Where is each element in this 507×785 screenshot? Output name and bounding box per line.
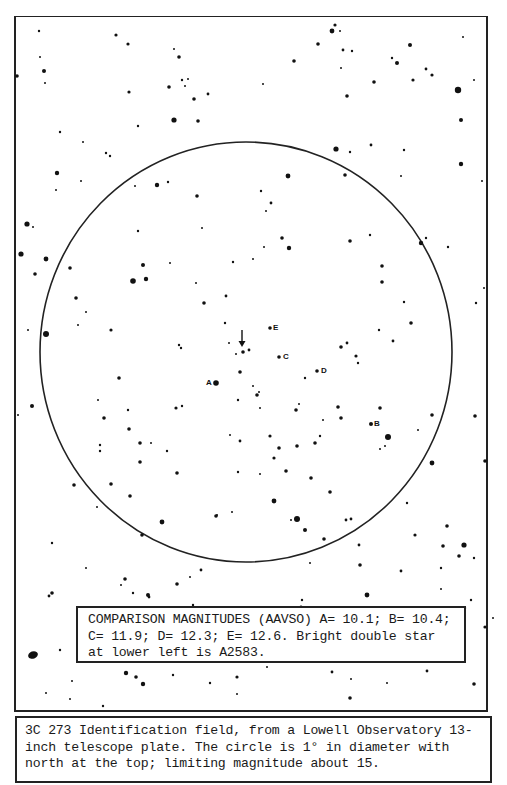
target-arrow-icon (239, 330, 246, 347)
comparison-magnitudes-box: COMPARISON MAGNITUDES (AAVSO) A= 10.1; B… (76, 606, 466, 663)
caption-line-2: inch telescope plate. The circle is 1° i… (25, 740, 490, 757)
stars (15, 23, 494, 707)
figure-caption: 3C 273 Identification field, from a Lowe… (15, 716, 492, 783)
star-field (0, 0, 507, 785)
caption-line-1: 3C 273 Identification field, from a Lowe… (25, 723, 490, 740)
comparison-label-a: A (206, 378, 212, 387)
caption-line-3: north at the top; limiting magnitude abo… (25, 756, 490, 773)
one-degree-circle (40, 142, 452, 562)
comparison-label-d: D (321, 366, 327, 375)
magnitudes-line-3: at lower left is A2583. (88, 645, 464, 662)
magnitudes-line-2: C= 11.9; D= 12.3; E= 12.6. Bright double… (88, 629, 464, 646)
magnitudes-line-1: COMPARISON MAGNITUDES (AAVSO) A= 10.1; B… (88, 612, 464, 629)
comparison-label-b: B (374, 419, 380, 428)
comparison-label-e: E (273, 323, 278, 332)
comparison-label-c: C (283, 352, 289, 361)
